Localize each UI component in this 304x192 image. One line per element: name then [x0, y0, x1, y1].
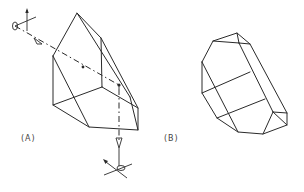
crystal-b	[202, 33, 287, 134]
panel-label-b: (B)	[164, 134, 179, 143]
crystal-a	[53, 13, 138, 130]
emergent-ray	[116, 89, 122, 166]
analyzer-icon	[103, 159, 132, 178]
panel-label-a: (A)	[21, 134, 36, 143]
polarizer-icon	[13, 8, 37, 31]
diagram-canvas	[0, 0, 304, 192]
